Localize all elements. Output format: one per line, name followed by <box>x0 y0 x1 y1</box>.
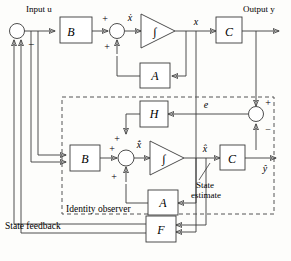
wire-feedback-into-input-sum <box>14 40 21 70</box>
label-signal-yhat: ŷ <box>262 163 268 174</box>
state-estimate-pointer <box>199 163 210 180</box>
label-block-b-observer: B <box>81 152 89 166</box>
summing-junction-plant <box>110 24 125 39</box>
summing-junction-error <box>249 107 264 122</box>
label-identity-observer: Identity observer <box>66 204 131 214</box>
label-signal-x: x <box>193 16 199 27</box>
sign-error-sum-minus: − <box>265 124 271 135</box>
label-block-b-plant: B <box>67 25 75 39</box>
label-state-estimate-1: State <box>196 180 214 190</box>
label-integrator-plant: ∫ <box>152 25 157 39</box>
sign-obs-sum-top: + <box>114 133 120 144</box>
block-diagram-canvas: Input u Output y B ∫ C A ẋ x + + − H e … <box>0 0 291 261</box>
label-block-c-plant: C <box>225 25 234 39</box>
label-signal-xhatdot: x̂̇ <box>136 139 142 150</box>
sign-error-sum-plus: + <box>265 97 271 108</box>
diagram-svg: Input u Output y B ∫ C A ẋ x + + − H e … <box>0 0 291 261</box>
sign-plant-sum-top: + <box>102 13 108 24</box>
label-block-f: F <box>156 223 165 237</box>
label-signal-xdot: ẋ <box>127 12 133 23</box>
label-signal-xhat: x̂ <box>202 143 208 154</box>
wire-a-plant-out <box>117 56 140 76</box>
label-integrator-observer: ∫ <box>161 152 166 166</box>
sign-obs-sum-left: + <box>109 143 115 154</box>
wire-a-obs-out <box>126 184 148 203</box>
summing-junction-input <box>10 24 25 39</box>
wire-u-tap-to-obs-b <box>38 31 61 155</box>
sign-plant-sum-bottom: + <box>104 41 110 52</box>
block-b-plant <box>60 17 92 43</box>
wire-h-out <box>126 114 140 134</box>
wire-u-tap2-to-obs-b <box>31 31 61 162</box>
wire-x-to-a-plant <box>172 31 186 76</box>
sign-input-sum-minus: − <box>28 38 34 50</box>
label-block-a-plant: A <box>150 69 159 83</box>
label-state-feedback: State feedback <box>5 221 61 231</box>
label-block-h: H <box>149 107 160 121</box>
label-block-c-observer: C <box>228 152 237 166</box>
block-integrator-plant <box>141 14 175 48</box>
label-block-a-observer: A <box>158 196 167 210</box>
label-state-estimate-2: estimate <box>191 190 221 200</box>
label-signal-e: e <box>204 99 209 110</box>
summing-junction-observer <box>118 150 134 166</box>
block-integrator-observer <box>150 141 184 175</box>
sign-obs-sum-bottom: + <box>111 171 117 182</box>
label-output-y: Output y <box>243 4 275 14</box>
label-input-u: Input u <box>26 4 52 14</box>
